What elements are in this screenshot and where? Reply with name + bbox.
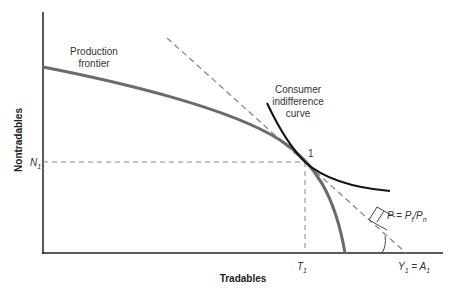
production-frontier-label-2: frontier xyxy=(78,58,110,69)
y-axis-label: Nontradables xyxy=(13,108,24,172)
y1-a1-label: Y1 = A1 xyxy=(398,261,430,274)
price-pointer xyxy=(377,211,384,222)
diagram-canvas: Production frontier Consumer indifferenc… xyxy=(0,0,453,293)
t1-label: T1 xyxy=(297,261,307,274)
price-ratio-label: P = Pt/Pn xyxy=(387,210,427,223)
x-axis-label: Tradables xyxy=(220,273,267,284)
indifference-label-1: Consumer xyxy=(275,84,322,95)
n1-label: N1 xyxy=(30,157,41,170)
indifference-label-3: curve xyxy=(286,108,311,119)
production-frontier-label-1: Production xyxy=(70,46,118,57)
point-1-label: 1 xyxy=(308,148,314,159)
angle-arc xyxy=(382,236,385,253)
indifference-label-2: indifference xyxy=(272,96,324,107)
